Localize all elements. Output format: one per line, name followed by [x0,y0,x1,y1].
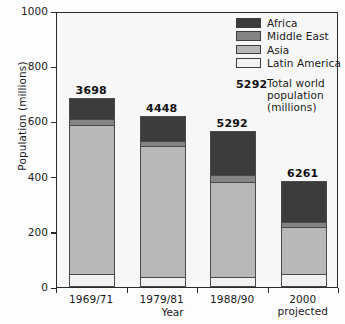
legend-swatch [236,18,261,28]
y-tick-label: 400 [28,171,48,183]
x-axis-title: Year [0,306,345,318]
bar-segment-middle-east[interactable] [69,119,115,125]
bar-segment-middle-east[interactable] [210,175,256,182]
bar-1969-71[interactable] [69,11,115,287]
bar-segment-asia[interactable] [140,146,186,277]
bar-segment-latin-america[interactable] [281,274,327,287]
legend-label: Middle East [267,30,329,42]
legend-swatch [236,45,261,55]
x-axis-label: 1969/71 [56,294,127,306]
y-tick-label: 800 [28,60,48,72]
bar-value-label: 4448 [127,102,197,115]
bar-segment-latin-america[interactable] [69,274,115,287]
annotation-text: Total worldpopulation(millions) [267,78,325,113]
x-tick-mark [338,288,339,293]
bar-segment-asia[interactable] [281,227,327,274]
bar-segment-africa[interactable] [281,181,327,222]
x-tick-mark [268,288,269,293]
bar-value-label: 6261 [268,167,338,180]
bar-segment-africa[interactable] [210,131,256,175]
y-axis-title: Population (millions) [16,36,28,196]
y-tick-label: 200 [28,226,48,238]
bar-segment-africa[interactable] [69,98,115,119]
bar-segment-middle-east[interactable] [140,141,186,146]
annotation-value: 5292 [236,78,267,91]
x-tick-mark [197,288,198,293]
plot-area [56,12,338,288]
x-axis-label: 1979/81 [127,294,198,306]
x-tick-mark [56,288,57,293]
bar-segment-latin-america[interactable] [140,277,186,287]
bar-segment-asia[interactable] [210,182,256,277]
x-axis-label: 1988/90 [197,294,268,306]
y-tick-label: 0 [41,281,48,293]
x-tick-mark [127,288,128,293]
stacked-bar-chart: Population (millions) 1000 800 600 400 2… [0,0,345,324]
bar-1979-81[interactable] [140,11,186,287]
legend-label: Africa [267,17,298,29]
bar-segment-asia[interactable] [69,125,115,274]
bar-segment-africa[interactable] [140,116,186,141]
legend-label: Asia [267,44,289,56]
legend-label: Latin America [267,57,341,69]
legend-swatch [236,31,261,41]
legend-swatch [236,58,261,68]
bar-segment-latin-america[interactable] [210,277,256,287]
bar-value-label: 5292 [197,117,267,130]
y-tick-label: 1000 [21,5,48,17]
bar-segment-middle-east[interactable] [281,222,327,227]
bar-value-label: 3698 [56,84,126,97]
y-tick-label: 600 [28,115,48,127]
